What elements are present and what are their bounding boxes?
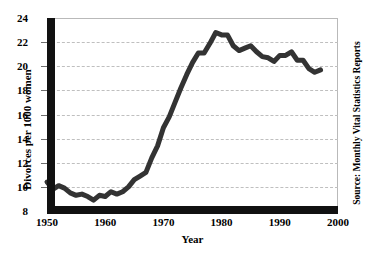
y-tick-mark-12 — [41, 163, 47, 164]
y-tick-mark-18 — [41, 90, 47, 91]
y-tick-mark-22 — [41, 42, 47, 43]
y-tick-mark-10 — [41, 187, 47, 188]
y-tick-label-20: 20 — [2, 60, 28, 72]
x-tick-label-2000: 2000 — [316, 216, 360, 228]
x-axis-bar — [47, 206, 338, 214]
y-tick-mark-16 — [41, 115, 47, 116]
y-tick-label-22: 22 — [2, 36, 28, 48]
series-polyline — [47, 32, 321, 200]
x-tick-label-1970: 1970 — [141, 216, 185, 228]
x-tick-label-1980: 1980 — [200, 216, 244, 228]
x-tick-label-1960: 1960 — [83, 216, 127, 228]
y-tick-label-10: 10 — [2, 181, 28, 193]
y-tick-mark-14 — [41, 139, 47, 140]
x-tick-label-1990: 1990 — [258, 216, 302, 228]
y-tick-label-16: 16 — [2, 109, 28, 121]
x-axis-title-text: Year — [182, 233, 204, 245]
plot-area — [47, 18, 338, 211]
x-axis-title: Year — [47, 233, 338, 245]
divorce-rate-line-chart: Divorces per 1000 women Source: Monthly … — [0, 0, 371, 259]
y-tick-label-14: 14 — [2, 133, 28, 145]
source-note-text: Source: Monthly Vital Statistics Reports — [352, 41, 362, 204]
y-tick-mark-20 — [41, 66, 47, 67]
y-axis-bar — [47, 18, 55, 214]
x-tick-label-1950: 1950 — [25, 216, 69, 228]
source-note: Source: Monthly Vital Statistics Reports — [349, 8, 365, 238]
series-line-divorces — [47, 18, 338, 211]
y-tick-label-18: 18 — [2, 84, 28, 96]
y-tick-label-12: 12 — [2, 157, 28, 169]
y-tick-label-24: 24 — [2, 12, 28, 24]
